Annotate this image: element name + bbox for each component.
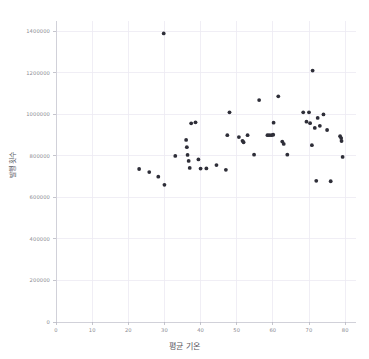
scatter-point: [285, 153, 289, 157]
scatter-point: [147, 170, 151, 174]
scatter-point: [271, 133, 275, 137]
scatter-point: [272, 121, 276, 125]
scatter-point: [341, 155, 345, 159]
scatter-point: [225, 133, 229, 137]
scatter-point: [224, 168, 228, 172]
scatter-point: [301, 110, 305, 114]
x-tick-label: 50: [233, 327, 240, 333]
scatter-point: [318, 124, 322, 128]
scatter-point: [186, 153, 190, 157]
scatter-point: [307, 110, 311, 114]
plot-axes-area: [56, 21, 356, 322]
scatter-point: [199, 167, 203, 171]
scatter-point: [311, 69, 315, 73]
scatter-point: [329, 179, 333, 183]
scatter-point: [257, 98, 261, 102]
x-tick-label: 20: [125, 327, 132, 333]
scatter-point: [246, 133, 250, 137]
scatter-point: [173, 154, 177, 158]
x-axis-title: 평균 기온: [0, 340, 369, 351]
scatter-point: [194, 120, 198, 124]
scatter-point: [308, 121, 312, 125]
x-tick-label: 40: [197, 327, 204, 333]
x-tick-label: 70: [306, 327, 313, 333]
scatter-point: [188, 166, 192, 170]
x-tick-label: 0: [54, 327, 57, 333]
scatter-point: [314, 179, 318, 183]
scatter-point: [184, 138, 188, 142]
scatter-point: [316, 116, 320, 120]
scatter-point: [237, 135, 241, 139]
scatter-point: [305, 120, 309, 124]
scatter-point: [276, 94, 280, 98]
scatter-point: [197, 158, 201, 162]
x-tick-label: 30: [161, 327, 168, 333]
scatter-point: [189, 121, 193, 125]
scatter-point: [215, 163, 219, 167]
scatter-point: [242, 140, 246, 144]
scatter-point: [162, 32, 166, 36]
scatter-point: [310, 143, 314, 147]
scatter-point: [340, 139, 344, 143]
scatter-point: [156, 175, 160, 179]
x-tick-label: 60: [269, 327, 276, 333]
y-axis-title: 발행 횟수: [7, 105, 17, 225]
scatter-point: [137, 167, 141, 171]
y-axis-title-container: 발행 횟수: [4, 0, 24, 359]
scatter-point: [322, 113, 326, 117]
scatter-point: [204, 166, 208, 170]
x-tick-label: 10: [89, 327, 96, 333]
scatter-point: [325, 128, 329, 132]
x-tick-label: 80: [342, 327, 349, 333]
scatter-point: [187, 159, 191, 163]
scatter-plot-figure: 0200000400000600000800000100000012000001…: [0, 0, 369, 359]
scatter-point: [313, 126, 317, 130]
scatter-point: [185, 145, 189, 149]
data-points: [56, 21, 356, 322]
scatter-point: [163, 183, 167, 187]
scatter-point: [228, 110, 232, 114]
scatter-point: [282, 142, 286, 146]
scatter-point: [252, 153, 256, 157]
